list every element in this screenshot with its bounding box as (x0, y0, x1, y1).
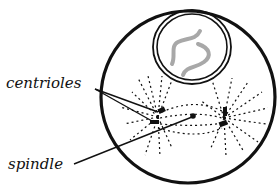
label-pointers (74, 89, 192, 164)
nucleus (153, 10, 231, 84)
chromatin (172, 31, 209, 75)
cell-membrane (101, 11, 275, 183)
spindle-label: spindle (8, 157, 63, 172)
centrioles-label: centrioles (6, 76, 81, 91)
